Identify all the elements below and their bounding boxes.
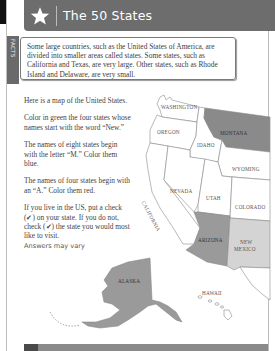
label-new-mexico-2: MEXICO: [234, 246, 256, 252]
header-divider: [56, 6, 57, 26]
aleutian-islands: [50, 312, 80, 326]
page-header: The 50 States: [24, 0, 275, 31]
label-wyoming: WYOMING: [232, 166, 260, 172]
star-icon: [29, 5, 51, 27]
state-hawaii[interactable]: [198, 296, 232, 320]
state-alaska[interactable]: [82, 258, 182, 328]
label-utah: UTAH: [206, 195, 221, 201]
footer-bar: [24, 344, 268, 351]
instruction-red: The names of four states begin with an “…: [24, 176, 132, 195]
label-nevada: NEVADA: [170, 188, 192, 194]
instruction-intro: Here is a map of the United States.: [24, 96, 132, 105]
label-idaho: IDAHO: [197, 142, 215, 148]
label-arizona: ARIZONA: [198, 237, 223, 243]
instructions: Here is a map of the United States. Colo…: [24, 96, 132, 251]
answers-note: Answers may vary: [24, 242, 132, 251]
facts-tab: FACTS: [7, 36, 19, 84]
instruction-green: Color in green the four states whose nam…: [24, 113, 132, 132]
label-new-mexico-1: NEW: [240, 239, 252, 245]
label-oregon: OREGON: [157, 129, 180, 135]
label-montana: MONTANA: [220, 130, 248, 136]
footer-icon: [24, 344, 38, 351]
facts-text: Some large countries, such as the United…: [27, 42, 218, 79]
instruction-check: If you live in the US, put a check (✔) o…: [24, 203, 132, 241]
state-texas-edge: [240, 267, 270, 300]
label-alaska: ALASKA: [118, 278, 140, 284]
facts-tab-label: FACTS: [10, 39, 16, 58]
page-title: The 50 States: [63, 8, 152, 23]
label-colorado: COLORADO: [235, 204, 265, 210]
instruction-blue: The names of eight states begin with the…: [24, 140, 132, 168]
label-washington: WASHINGTON: [161, 104, 198, 110]
label-hawaii: HAWAII: [202, 290, 222, 296]
state-colorado[interactable]: [230, 177, 270, 221]
facts-box: Some large countries, such as the United…: [20, 37, 236, 80]
